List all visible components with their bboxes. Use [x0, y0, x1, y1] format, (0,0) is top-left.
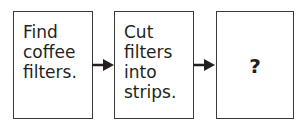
step-2-line-2: filters — [124, 42, 176, 62]
step-3-box: ? — [216, 11, 294, 119]
arrow-right-icon — [193, 58, 216, 72]
step-1-text: Find coffee filters. — [23, 22, 77, 82]
step-2-line-1: Cut — [124, 22, 176, 42]
arrow-right-icon — [92, 58, 115, 72]
step-1-line-2: coffee — [23, 42, 77, 62]
step-2-line-4: strips. — [124, 82, 176, 102]
step-2-box: Cut filters into strips. — [114, 11, 194, 119]
step-2-line-3: into — [124, 62, 176, 82]
step-1-line-1: Find — [23, 22, 77, 42]
step-1-box: Find coffee filters. — [13, 11, 93, 119]
unknown-step-text: ? — [217, 54, 293, 78]
step-2-text: Cut filters into strips. — [124, 22, 176, 102]
step-1-line-3: filters. — [23, 62, 77, 82]
